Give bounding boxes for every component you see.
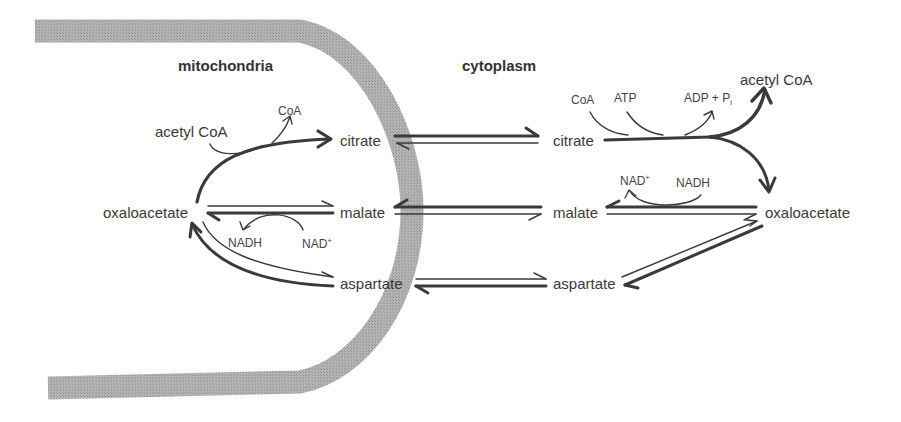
- mito-acetyl-coa: acetyl CoA: [155, 124, 228, 139]
- cyto-nadh: NADH: [676, 177, 710, 189]
- label-cytoplasm: cytoplasm: [462, 58, 536, 73]
- cyto-adp-pi: ADP + Pi: [684, 92, 732, 107]
- arrow-nadh-to-nad-cyto: [630, 191, 701, 205]
- arrow-aspartate-to-oaa-mito: [192, 224, 333, 286]
- cyto-pi-subscript: i: [730, 98, 732, 107]
- mito-nadh: NADH: [228, 237, 262, 249]
- cyto-citrate: citrate: [553, 133, 594, 148]
- mito-citrate: citrate: [340, 133, 381, 148]
- cyto-malate: malate: [553, 205, 598, 220]
- mito-malate: malate: [340, 205, 385, 220]
- cyto-nad-text: NAD: [620, 174, 645, 188]
- mito-oxaloacetate: oxaloacetate: [103, 205, 188, 220]
- arrow-coa-in-cyto: [590, 112, 628, 135]
- pathway-diagram: mitochondria cytoplasm acetyl CoA CoA ci…: [0, 0, 901, 422]
- cyto-nad-superscript: +: [645, 173, 650, 182]
- arrow-adp-out-cyto: [685, 112, 712, 135]
- cyto-coa: CoA: [571, 94, 594, 106]
- arrow-aspartate-to-oaa-cyto: [622, 221, 757, 277]
- mito-nad-text: NAD: [302, 237, 327, 251]
- cyto-atp: ATP: [614, 92, 636, 104]
- cyto-aspartate: aspartate: [553, 276, 616, 291]
- arrow-atp-in-cyto: [627, 112, 663, 135]
- mito-nad-superscript: +: [327, 236, 332, 245]
- mito-aspartate: aspartate: [340, 276, 403, 291]
- cyto-acetyl-coa: acetyl CoA: [740, 72, 813, 87]
- cyto-oxaloacetate: oxaloacetate: [765, 205, 850, 220]
- arrow-coa-out-mito: [272, 117, 290, 143]
- label-mitochondria: mitochondria: [178, 58, 273, 73]
- cyto-nad-plus: NAD+: [620, 174, 650, 187]
- mito-coa: CoA: [278, 105, 301, 117]
- arrow-oaa-to-aspartate-cyto: [625, 226, 762, 285]
- arrow-citrate-cleavage: [605, 137, 710, 140]
- mito-nad-plus: NAD+: [302, 237, 332, 250]
- cyto-adp-text: ADP + P: [684, 91, 730, 105]
- arrow-oaa-to-citrate-mito: [197, 139, 330, 202]
- arrow-nad-to-nadh-mito: [244, 215, 303, 230]
- arrow-acetylcoa-in-mito: [210, 144, 262, 154]
